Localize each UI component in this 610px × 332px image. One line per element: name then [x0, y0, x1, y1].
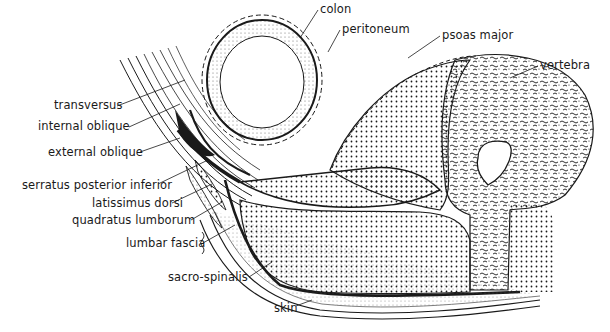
label-colon: colon [320, 4, 351, 16]
label-lumbar-fascia: lumbar fascia [126, 238, 205, 250]
anatomy-diagram: colon peritoneum psoas major vertebra tr… [0, 0, 610, 332]
quadratus-lumborum-shape [240, 168, 440, 208]
label-internal-oblique: internal oblique [38, 121, 130, 133]
label-quadratus-lumborum: quadratus lumborum [72, 215, 195, 227]
label-latissimus-dorsi: latissimus dorsi [92, 198, 183, 210]
label-vertebra: vertebra [540, 60, 590, 72]
label-sacro-spinalis: sacro-spinalis [168, 272, 248, 284]
label-transversus: transversus [54, 100, 123, 112]
label-psoas-major: psoas major [442, 30, 513, 42]
label-external-oblique: external oblique [48, 147, 143, 159]
colon-shape [202, 15, 322, 145]
label-peritoneum: peritoneum [342, 24, 410, 36]
label-skin: skin [274, 303, 298, 315]
cross-section-drawing [0, 0, 610, 332]
label-serratus-posterior-inferior: serratus posterior inferior [22, 180, 172, 192]
